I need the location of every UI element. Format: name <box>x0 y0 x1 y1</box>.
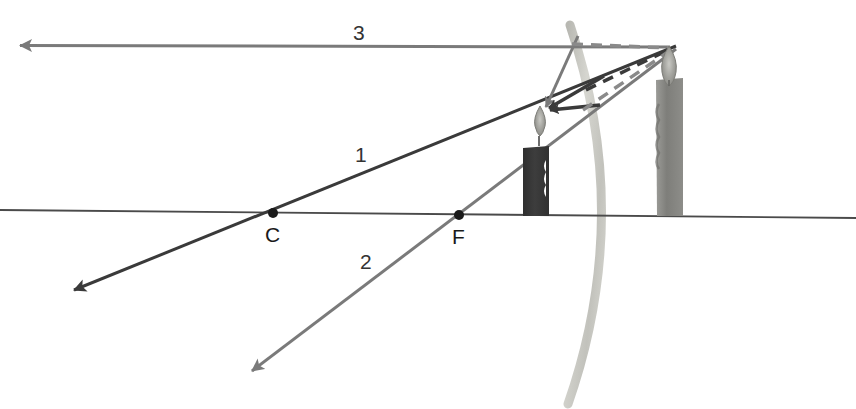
ray-2-line <box>252 49 676 371</box>
center-of-curvature-label: C <box>265 224 280 245</box>
dashed-line-upper-diagonal <box>586 51 666 90</box>
ray-1-line <box>74 46 676 290</box>
focal-point-marker <box>454 210 464 220</box>
image-candle-virtual <box>656 46 683 216</box>
ray-3-label: 3 <box>353 22 365 43</box>
ray-2-label: 2 <box>360 251 372 272</box>
principal-axis <box>0 210 856 218</box>
ray-diagram-figure: 3 1 2 C F <box>0 0 856 409</box>
focal-point-label: F <box>452 226 465 247</box>
object-candle <box>523 106 549 216</box>
center-of-curvature-marker <box>268 208 278 218</box>
ray-1-label: 1 <box>355 144 367 165</box>
diagram-canvas <box>0 0 856 409</box>
